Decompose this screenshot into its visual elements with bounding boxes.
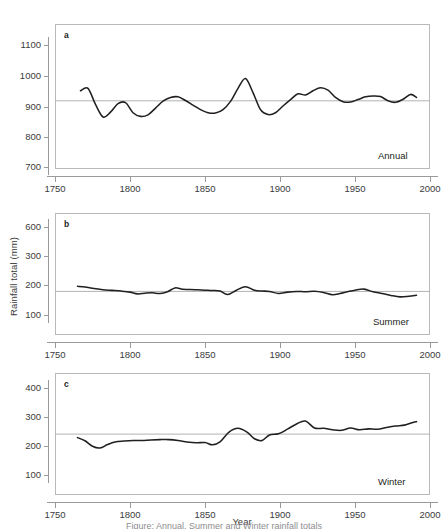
x-tick-mark: [280, 177, 281, 182]
x-tick-label: 1950: [335, 183, 375, 194]
season-label-annual: Annual: [378, 150, 408, 161]
panel-letter-a: a: [64, 30, 69, 40]
x-tick-label: 1800: [110, 509, 150, 520]
y-tick-mark: [44, 45, 49, 46]
y-tick-mark: [44, 446, 49, 447]
y-tick-label: 400: [3, 382, 41, 393]
y-tick-label: 600: [3, 221, 41, 232]
x-tick-mark: [205, 503, 206, 508]
x-tick-mark: [280, 343, 281, 348]
x-tick-mark: [130, 177, 131, 182]
y-axis-spine: [48, 219, 49, 323]
panel-letter-c: c: [64, 379, 69, 389]
x-tick-label: 1950: [335, 509, 375, 520]
figure-caption: Figure: Annual, Summer and Winter rainfa…: [0, 521, 448, 529]
y-tick-label: 100: [3, 469, 41, 480]
x-tick-mark: [430, 503, 431, 508]
x-tick-label: 1800: [110, 349, 150, 360]
x-tick-mark: [205, 343, 206, 348]
x-axis-spine: [47, 342, 438, 343]
x-tick-label: 2000: [410, 349, 448, 360]
y-tick-label: 1000: [3, 70, 41, 81]
x-tick-label: 1750: [35, 183, 75, 194]
x-tick-label: 1850: [185, 183, 225, 194]
x-tick-label: 1900: [260, 349, 300, 360]
series-annual: [55, 24, 430, 169]
x-tick-mark: [205, 177, 206, 182]
x-tick-label: 1900: [260, 183, 300, 194]
y-tick-label: 200: [3, 279, 41, 290]
y-tick-mark: [44, 285, 49, 286]
x-tick-mark: [355, 343, 356, 348]
y-tick-label: 800: [3, 131, 41, 142]
rainfall-figure: Rainfall total (mm) a Annual 11001000900…: [0, 0, 448, 529]
y-tick-label: 900: [3, 101, 41, 112]
x-tick-mark: [430, 177, 431, 182]
x-axis-spine: [47, 176, 438, 177]
x-tick-mark: [355, 503, 356, 508]
panel-winter: c Winter 400300200100 175018001850190019…: [0, 365, 448, 529]
y-tick-mark: [44, 76, 49, 77]
panel-summer: b Summer 600300200100 175018001850190019…: [0, 200, 448, 365]
series-winter: [55, 373, 430, 495]
y-tick-label: 700: [3, 161, 41, 172]
y-tick-mark: [44, 388, 49, 389]
y-tick-label: 300: [3, 411, 41, 422]
y-tick-mark: [44, 107, 49, 108]
data-line-annual: [81, 78, 417, 117]
y-tick-mark: [44, 256, 49, 257]
x-tick-mark: [130, 503, 131, 508]
x-tick-label: 1800: [110, 183, 150, 194]
x-tick-mark: [430, 343, 431, 348]
x-axis-spine: [47, 502, 438, 503]
x-tick-label: 1750: [35, 349, 75, 360]
panel-annual: a Annual 11001000900800700 1750180018501…: [0, 10, 448, 190]
y-axis-spine: [48, 380, 49, 483]
y-tick-label: 100: [3, 309, 41, 320]
y-tick-mark: [44, 417, 49, 418]
x-tick-label: 2000: [410, 183, 448, 194]
y-tick-label: 1100: [3, 39, 41, 50]
y-tick-mark: [44, 227, 49, 228]
panel-letter-b: b: [64, 219, 69, 229]
x-tick-mark: [55, 503, 56, 508]
x-tick-label: 1850: [185, 349, 225, 360]
y-tick-label: 300: [3, 250, 41, 261]
season-label-winter: Winter: [378, 476, 405, 487]
y-tick-mark: [44, 475, 49, 476]
x-tick-mark: [130, 343, 131, 348]
x-tick-mark: [55, 177, 56, 182]
x-tick-mark: [280, 503, 281, 508]
x-tick-mark: [55, 343, 56, 348]
x-tick-label: 2000: [410, 509, 448, 520]
y-tick-mark: [44, 315, 49, 316]
y-tick-mark: [44, 167, 49, 168]
x-tick-label: 1950: [335, 349, 375, 360]
y-tick-label: 200: [3, 440, 41, 451]
x-tick-label: 1750: [35, 509, 75, 520]
x-tick-mark: [355, 177, 356, 182]
y-tick-mark: [44, 137, 49, 138]
y-axis-spine: [48, 37, 49, 175]
season-label-summer: Summer: [373, 316, 409, 327]
